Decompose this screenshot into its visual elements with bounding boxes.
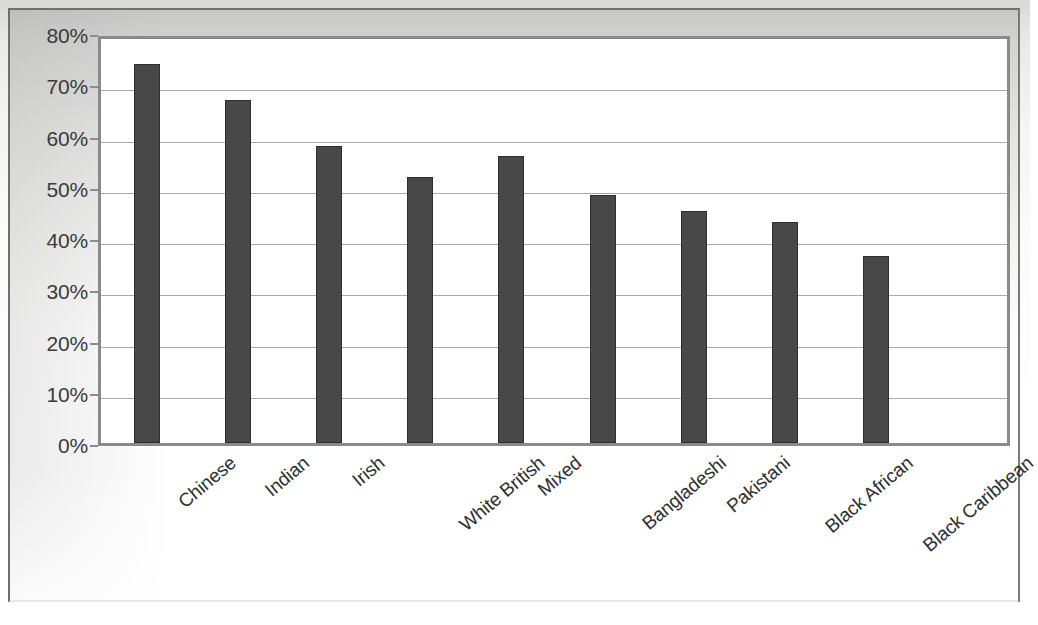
y-axis-tick-mark	[90, 189, 98, 191]
y-axis-tick-label: 70%	[14, 75, 88, 99]
x-axis-tick-label-text: Pakistani	[722, 452, 794, 517]
x-axis-tick-label-text: Chinese	[174, 452, 240, 513]
x-axis-tick-label: Indian	[261, 452, 314, 501]
x-axis-tick-label-text: White British	[456, 452, 550, 536]
y-axis-tick-label: 40%	[14, 229, 88, 253]
x-axis-tick-label-text: Bangladeshi	[638, 452, 731, 535]
y-axis-tick-mark	[90, 35, 98, 37]
y-axis-tick-mark	[90, 445, 98, 447]
y-axis-tick-label: 60%	[14, 127, 88, 151]
bar	[590, 195, 616, 443]
y-axis-tick-mark	[90, 86, 98, 88]
plot-area	[98, 36, 1010, 446]
x-axis-tick-label: Bangladeshi	[638, 452, 731, 535]
x-axis-tick-label: Black African	[821, 452, 917, 538]
y-axis-tick-mark	[90, 343, 98, 345]
bar	[407, 177, 433, 444]
y-axis-tick-label: 50%	[14, 178, 88, 202]
x-axis-tick-label: White British	[456, 452, 550, 536]
y-axis-tick-mark	[90, 240, 98, 242]
x-axis: ChineseIndianIrishWhite BritishMixedBang…	[98, 452, 1010, 602]
bar	[134, 64, 160, 443]
y-axis: 0%10%20%30%40%50%60%70%80%	[14, 36, 88, 446]
y-axis-tick-label: 30%	[14, 280, 88, 304]
x-axis-tick-label: Chinese	[174, 452, 240, 513]
bar	[225, 100, 251, 443]
x-axis-tick-label-text: Irish	[348, 452, 389, 491]
x-axis-tick-label-text: Indian	[261, 452, 314, 501]
y-axis-tick-mark	[90, 138, 98, 140]
bar-series	[101, 39, 1007, 443]
bar	[681, 211, 707, 443]
x-axis-tick-label-text: Black African	[821, 452, 917, 538]
y-axis-tick-label: 0%	[14, 434, 88, 458]
y-axis-tick-label: 80%	[14, 24, 88, 48]
y-axis-tick-mark	[90, 291, 98, 293]
bar	[498, 156, 524, 443]
bar	[316, 146, 342, 443]
bar	[863, 256, 889, 443]
y-axis-tick-mark	[90, 394, 98, 396]
x-axis-tick-label: Irish	[348, 452, 389, 491]
y-axis-tick-label: 10%	[14, 383, 88, 407]
y-axis-tick-label: 20%	[14, 332, 88, 356]
bar	[772, 222, 798, 443]
x-axis-tick-label: Pakistani	[722, 452, 794, 517]
